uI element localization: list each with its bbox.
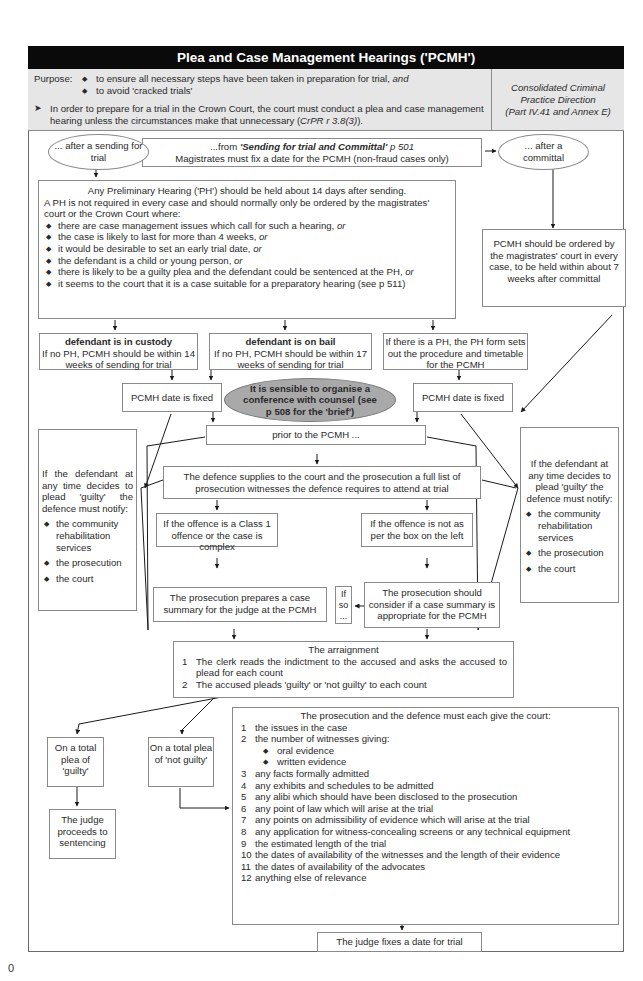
guilty-notify-left: If the defendant at any time decides to … — [38, 429, 137, 611]
branch-sending-for-trial: ... after a sending for trial — [48, 134, 149, 170]
ph-line1: Any Preliminary Hearing ('PH') should be… — [44, 185, 450, 197]
arraignment-steps: 1The clerk reads the indictment to the a… — [180, 656, 507, 691]
purpose-arrow-note: ➤ In order to prepare for a trial in the… — [34, 103, 486, 126]
pcmh-date-fixed-left: PCMH date is fixed — [122, 383, 222, 412]
bail-title: defendant is on bail — [210, 336, 371, 348]
arraignment-step: 2The accused pleads 'guilty' or 'not gui… — [180, 679, 507, 691]
citation-line: Practice Direction — [505, 94, 611, 106]
arraignment-title: The arraignment — [180, 644, 507, 656]
must-give-item: 12anything else of relevance — [239, 872, 612, 884]
purpose-panel: Purpose: ◆ to ensure all necessary steps… — [28, 69, 492, 131]
notify-item: the court — [524, 563, 615, 575]
start-prefix: ...from — [210, 141, 240, 152]
purpose-bullet-em: and — [393, 73, 409, 84]
custody-title: defendant is in custody — [40, 336, 197, 348]
ph-line2: A PH is not required in every case and s… — [44, 197, 450, 220]
ph-condition: the defendant is a child or young person… — [44, 255, 450, 267]
custody-body: If no PH, PCMH should be within 14 weeks… — [40, 348, 197, 371]
notify-item: the prosecution — [524, 547, 615, 559]
purpose-bullets: ◆ to ensure all necessary steps have bee… — [80, 73, 480, 96]
must-give-item: 6any point of law which will arise at th… — [239, 803, 612, 815]
start-line2: Magistrates must fix a date for the PCMH… — [143, 153, 481, 165]
preliminary-hearing-box: Any Preliminary Hearing ('PH') should be… — [38, 180, 456, 319]
purpose-bullet-text: to ensure all necessary steps have been … — [96, 73, 393, 84]
ph-condition: there is likely to be a guilty plea and … — [44, 266, 450, 278]
not-class1-box: If the offence is not as per the box on … — [361, 513, 473, 547]
witness-list-box: The defence supplies to the court and th… — [163, 466, 481, 499]
purpose-bullet-text: to avoid 'cracked trials' — [96, 85, 192, 96]
ph-conditions-list: there are case management issues which c… — [44, 220, 450, 290]
must-give-item: 7any points on admissibility of evidence… — [239, 814, 612, 826]
consider-summary-box: The prosecution should consider if a cas… — [364, 582, 500, 628]
notify-list: the community rehabilitation services th… — [524, 508, 615, 574]
evidence-type: written evidence — [261, 756, 612, 768]
must-give-item: 5any alibi which should have been disclo… — [239, 791, 612, 803]
diagram-title: Plea and Case Management Hearings ('PCMH… — [28, 46, 624, 69]
if-so-line: ... — [336, 611, 351, 622]
citation-panel: Consolidated Criminal Practice Direction… — [492, 69, 624, 131]
diamond-bullet-icon: ◆ — [82, 73, 87, 85]
ph-condition: the case is likely to last for more than… — [44, 231, 450, 243]
plea-not-guilty-box: On a total plea of 'not guilty' — [148, 737, 214, 787]
if-so-line: If — [336, 589, 351, 600]
start-box: ...from 'Sending for trial and Committal… — [142, 138, 482, 167]
must-give-item: 4any exhibits and schedules to be admitt… — [239, 780, 612, 792]
must-give-box: The prosecution and the defence must eac… — [232, 707, 619, 925]
case-summary-box: The prosecution prepares a case summary … — [153, 587, 327, 622]
must-give-item: 8any application for witness-concealing … — [239, 826, 612, 838]
sending-committal-link[interactable]: 'Sending for trial and Committal' — [240, 141, 387, 152]
must-give-item: 3any facts formally admitted — [239, 768, 612, 780]
branch-committal: ... after a committal — [498, 134, 589, 170]
notify-list: the community rehabilitation services th… — [42, 518, 133, 584]
bail-body: If no PH, PCMH should be within 17 weeks… — [210, 348, 371, 371]
arrowhead-bullet-icon: ➤ — [34, 103, 42, 115]
citation-line: Consolidated Criminal — [505, 82, 611, 94]
class1-box: If the offence is a Class 1 offence or t… — [156, 513, 278, 547]
if-so-box: If so ... — [335, 586, 352, 624]
diamond-bullet-icon: ◆ — [82, 85, 87, 97]
must-give-item: 11the dates of availability of the advoc… — [239, 861, 612, 873]
custody-box: defendant is in custody If no PH, PCMH s… — [39, 333, 198, 370]
notify-intro: If the defendant at any time decides to … — [42, 468, 133, 514]
citation-line: (Part IV.41 and Annex E) — [505, 106, 611, 118]
page-number: 0 — [8, 962, 14, 974]
purpose-bullet: ◆ to avoid 'cracked trials' — [80, 85, 480, 97]
start-page-ref: p 501 — [387, 141, 414, 152]
counsel-conference-note: It is sensible to organise a conference … — [224, 378, 396, 422]
committal-box: PCMH should be ordered by the magistrate… — [482, 229, 626, 307]
must-give-item: 2the number of witnesses giving: oral ev… — [239, 733, 612, 768]
if-so-line: so — [336, 600, 351, 611]
pcmh-date-fixed-right: PCMH date is fixed — [413, 383, 513, 412]
evidence-type: oral evidence — [261, 745, 612, 757]
notify-item: the court — [42, 573, 133, 585]
purpose-label: Purpose: — [34, 73, 72, 84]
must-give-title: The prosecution and the defence must eac… — [239, 710, 612, 722]
notify-item: the community rehabilitation services — [524, 508, 615, 543]
notify-intro: If the defendant at any time decides to … — [524, 458, 615, 504]
ph-form-box: If there is a PH, the PH form sets out t… — [383, 333, 528, 370]
trial-date-box: The judge fixes a date for trial — [317, 932, 482, 952]
must-give-item: 1the issues in the case — [239, 722, 612, 734]
purpose-bullet: ◆ to ensure all necessary steps have bee… — [80, 73, 480, 85]
notify-item: the community rehabilitation services — [42, 518, 133, 553]
plea-guilty-box: On a total plea of 'guilty' — [47, 737, 104, 787]
ph-condition: it would be desirable to set an early tr… — [44, 243, 450, 255]
must-give-item: 9the estimated length of the trial — [239, 838, 612, 850]
purpose-arrow-cite: CrPR r 3.8(3) — [300, 115, 357, 126]
ph-condition: there are case management issues which c… — [44, 220, 450, 232]
purpose-arrow-end: ). — [357, 115, 363, 126]
purpose-arrow-text: In order to prepare for a trial in the C… — [50, 103, 484, 126]
must-give-item: 10the dates of availability of the witne… — [239, 849, 612, 861]
notify-item: the prosecution — [42, 557, 133, 569]
arraignment-step: 1The clerk reads the indictment to the a… — [180, 656, 507, 679]
bail-box: defendant is on bail If no PH, PCMH shou… — [209, 333, 372, 370]
ph-condition: it seems to the court that it is a case … — [44, 278, 450, 290]
sentencing-box: The judge proceeds to sentencing — [49, 809, 116, 859]
prior-to-pcmh-box: prior to the PCMH ... — [206, 425, 426, 445]
witness-evidence-types: oral evidence written evidence — [261, 745, 612, 768]
arraignment-box: The arraignment 1The clerk reads the ind… — [173, 641, 514, 698]
guilty-notify-right: If the defendant at any time decides to … — [520, 427, 619, 603]
must-give-list: 1the issues in the case 2the number of w… — [239, 722, 612, 884]
